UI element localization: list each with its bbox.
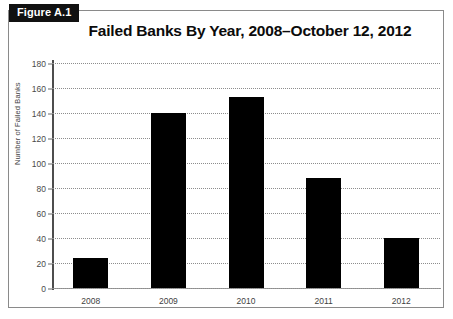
y-axis-tick-mark (48, 214, 52, 215)
y-axis-tick-mark (48, 289, 52, 290)
y-axis-tick-label: 20 (37, 259, 46, 269)
y-axis-tick-label: 120 (32, 134, 46, 144)
y-axis-tick-label: 0 (41, 284, 46, 294)
figure-container: Figure A.1 Failed Banks By Year, 2008–Oc… (0, 0, 453, 319)
y-axis-tick-label: 160 (32, 84, 46, 94)
bar (151, 113, 186, 288)
plot-area: 020406080100120140160180 (52, 63, 440, 288)
bar (384, 238, 419, 288)
x-axis-tick-label: 2009 (159, 296, 178, 306)
x-axis-tick-label: 2011 (314, 296, 332, 306)
y-axis-tick-label: 40 (37, 234, 46, 244)
x-axis-tick-label: 2010 (237, 296, 256, 306)
y-axis-tick-mark (48, 114, 52, 115)
y-axis-label: Number of Failed Banks (13, 82, 22, 165)
bar (73, 258, 108, 288)
y-axis-tick-mark (48, 139, 52, 140)
chart-title: Failed Banks By Year, 2008–October 12, 2… (60, 22, 440, 40)
figure-number-badge: Figure A.1 (9, 4, 79, 22)
y-axis-tick-mark (48, 239, 52, 240)
gridline: 180 (52, 63, 440, 64)
y-axis-tick-mark (48, 164, 52, 165)
y-axis-tick-label: 60 (37, 209, 46, 219)
bar (229, 97, 264, 288)
x-axis-tick-label: 2012 (392, 296, 411, 306)
x-axis-tick-label: 2008 (81, 296, 100, 306)
y-axis-tick-mark (48, 189, 52, 190)
y-axis-tick-mark (48, 264, 52, 265)
gridline: 160 (52, 88, 440, 89)
y-axis-tick-mark (48, 89, 52, 90)
y-axis-tick-label: 180 (32, 59, 46, 69)
y-axis-tick-label: 140 (32, 109, 46, 119)
y-axis-tick-label: 80 (37, 184, 46, 194)
bar (306, 178, 341, 288)
y-axis-tick-mark (48, 64, 52, 65)
gridline: 0 (52, 288, 440, 289)
y-axis-tick-label: 100 (32, 159, 46, 169)
